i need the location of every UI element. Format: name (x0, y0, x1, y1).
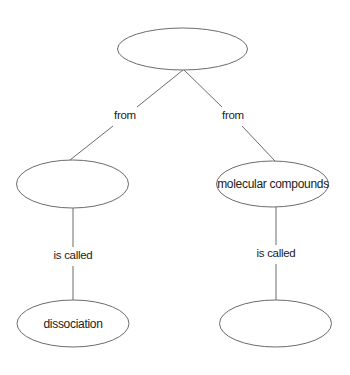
link-label-right-called: is called (257, 248, 296, 260)
link-label-root-left: from (114, 110, 136, 122)
node-left-bottom-text: dissociation (43, 318, 102, 330)
node-left-mid-ellipse (17, 160, 129, 208)
node-right-mid-text: molecular compounds (217, 178, 329, 190)
link-label-root-right: from (222, 110, 244, 122)
connector-root-to-right-mid-lower (242, 126, 275, 161)
connector-root-to-left-mid-lower (70, 126, 113, 160)
node-right-bottom-ellipse (220, 300, 332, 347)
connector-root-to-right-mid-upper (184, 70, 222, 107)
link-label-left-called: is called (54, 250, 93, 262)
concept-map-canvas: molecular compounds dissociation from fr… (0, 0, 350, 375)
node-root-ellipse (118, 28, 248, 70)
connector-root-to-left-mid-upper (137, 70, 183, 107)
